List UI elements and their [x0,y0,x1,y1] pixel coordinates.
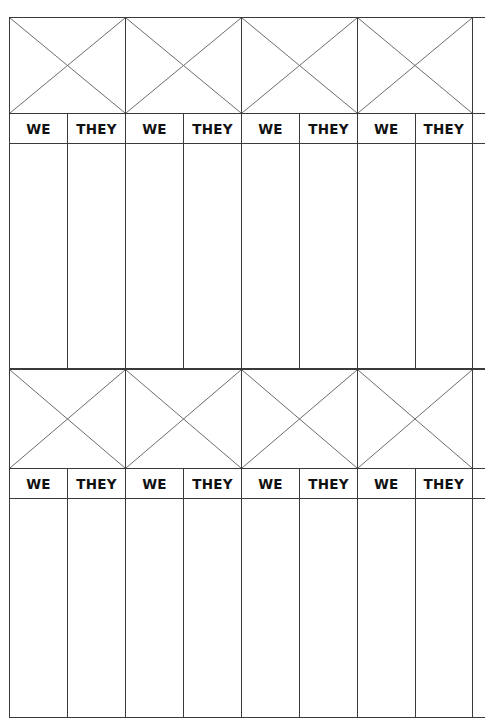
crossed-box [241,18,357,113]
answer-cell-we[interactable] [10,499,67,717]
header-they: THEY [299,469,357,498]
answer-pair [9,144,125,368]
header-pair: WE THEY [125,114,241,143]
cross-x-icon [10,370,125,468]
crossed-box [357,370,473,468]
answer-pair [125,499,241,717]
header-we: WE [10,114,67,143]
header-pair: WE THEY [125,469,241,498]
answer-cell-we[interactable] [10,144,67,368]
header-we: WE [10,469,67,498]
cross-x-icon [242,370,357,468]
column-header-row-bottom: WE THEY WE THEY WE THEY WE THEY [9,468,485,499]
cross-x-icon [10,18,125,113]
answer-pair [357,144,473,368]
header-we: WE [126,469,183,498]
crossed-box [357,18,473,113]
cross-x-icon [126,370,241,468]
header-they: THEY [415,469,473,498]
header-pair: WE THEY [9,469,125,498]
crossed-box [9,18,125,113]
crossed-box-band-bottom [9,369,485,468]
answer-cell-they[interactable] [183,144,241,368]
crossed-box [125,370,241,468]
crossed-box [125,18,241,113]
answer-body-row-bottom [9,499,485,718]
header-we: WE [242,469,299,498]
header-they: THEY [299,114,357,143]
header-we: WE [358,114,415,143]
answer-cell-we[interactable] [358,499,415,717]
header-pair: WE THEY [357,469,473,498]
answer-cell-they[interactable] [299,144,357,368]
header-they: THEY [183,114,241,143]
crossed-box [241,370,357,468]
crossed-box [9,370,125,468]
answer-pair [357,499,473,717]
answer-cell-they[interactable] [415,499,473,717]
answer-cell-they[interactable] [67,499,125,717]
answer-body-row-top [9,144,485,369]
header-they: THEY [67,469,125,498]
cross-x-icon [242,18,357,113]
answer-pair [241,144,357,368]
header-we: WE [242,114,299,143]
answer-cell-we[interactable] [126,499,183,717]
column-header-row-top: WE THEY WE THEY WE THEY WE THEY [9,113,485,144]
header-pair: WE THEY [9,114,125,143]
worksheet-section-bottom: WE THEY WE THEY WE THEY WE THEY [9,369,485,718]
answer-cell-they[interactable] [299,499,357,717]
cross-x-icon [126,18,241,113]
cross-x-icon [358,18,472,113]
answer-cell-they[interactable] [67,144,125,368]
header-they: THEY [415,114,473,143]
header-pair: WE THEY [241,114,357,143]
crossed-box-band-top [9,17,485,113]
header-we: WE [126,114,183,143]
worksheet-section-top: WE THEY WE THEY WE THEY WE THEY [9,17,485,369]
answer-cell-they[interactable] [183,499,241,717]
answer-cell-we[interactable] [126,144,183,368]
answer-pair [241,499,357,717]
answer-cell-we[interactable] [242,499,299,717]
answer-cell-we[interactable] [242,144,299,368]
header-pair: WE THEY [241,469,357,498]
header-we: WE [358,469,415,498]
cross-x-icon [358,370,472,468]
header-pair: WE THEY [357,114,473,143]
header-they: THEY [67,114,125,143]
answer-pair [125,144,241,368]
answer-cell-they[interactable] [415,144,473,368]
worksheet-page: WE THEY WE THEY WE THEY WE THEY [0,0,485,725]
answer-cell-we[interactable] [358,144,415,368]
header-they: THEY [183,469,241,498]
answer-pair [9,499,125,717]
